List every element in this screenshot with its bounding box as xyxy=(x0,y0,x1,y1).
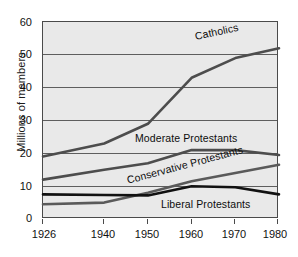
x-tick-1940: 1940 xyxy=(91,228,115,240)
x-tick-1970: 1970 xyxy=(222,228,246,240)
x-tick-1980: 1980 xyxy=(263,228,287,240)
x-tickmark-1950 xyxy=(147,219,148,224)
membership-line-chart: Millions of members 60 50 40 30 20 10 0 … xyxy=(0,0,298,257)
x-tickmark-1940 xyxy=(103,219,104,224)
x-tickmark-1980 xyxy=(277,219,278,224)
x-tickmark-1960 xyxy=(191,219,192,224)
x-tick-1950: 1950 xyxy=(135,228,159,240)
x-tickmark-1970 xyxy=(234,219,235,224)
x-tickmark-1926 xyxy=(42,219,43,224)
x-tick-1926: 1926 xyxy=(32,228,56,240)
x-axis-ticks: 1926 1940 1950 1960 1970 1980 xyxy=(0,0,298,257)
x-tick-1960: 1960 xyxy=(179,228,203,240)
